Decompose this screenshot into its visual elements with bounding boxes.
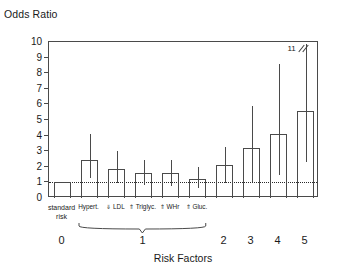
error-bar-2 (117, 151, 118, 183)
error-bar-5 (198, 167, 199, 188)
error-bar-3 (144, 160, 145, 185)
group-number-0: 0 (58, 234, 64, 246)
y-axis-title: Odds Ratio (4, 8, 58, 20)
group-number-3: 3 (247, 234, 253, 246)
category-label-1: Hypert. (78, 203, 99, 210)
chart-figure: Odds Ratio 012345678910 11 standardriskH… (0, 0, 337, 275)
x-axis-title: Risk Factors (154, 252, 212, 264)
y-tick-label-5: 5 (12, 114, 42, 125)
error-bar-8 (279, 64, 280, 176)
y-tick-label-3: 3 (12, 145, 42, 156)
category-label-4: ⇑ WHr (160, 203, 180, 211)
y-tick-label-7: 7 (12, 82, 42, 93)
y-tick-label-4: 4 (12, 129, 42, 140)
category-label-3: ⇑ Triglyc. (129, 203, 156, 211)
category-label-0: standardrisk (48, 203, 75, 221)
break-label: 11 (288, 44, 296, 53)
bar-0 (54, 182, 71, 198)
group-number-4: 4 (274, 234, 280, 246)
group-number-2: 2 (220, 234, 226, 246)
y-tick-label-10: 10 (12, 36, 42, 47)
category-label-5: ⇑ Gluc. (186, 203, 208, 211)
group-number-1: 1 (139, 234, 145, 246)
error-bar-6 (225, 147, 226, 184)
y-tick-label-8: 8 (12, 67, 42, 78)
y-tick-label-0: 0 (12, 192, 42, 203)
error-bar-9 (306, 44, 307, 162)
group-number-5: 5 (301, 234, 307, 246)
error-bar-1 (90, 134, 91, 178)
y-tick-label-6: 6 (12, 98, 42, 109)
y-tick-label-1: 1 (12, 176, 42, 187)
y-tick-label-2: 2 (12, 160, 42, 171)
y-tick-label-9: 9 (12, 51, 42, 62)
category-label-2: ⇓ LDL (106, 203, 125, 211)
error-bar-4 (171, 160, 172, 186)
error-bar-7 (252, 106, 253, 182)
brace-icon (78, 222, 207, 234)
plot-area: 11 (48, 41, 318, 197)
